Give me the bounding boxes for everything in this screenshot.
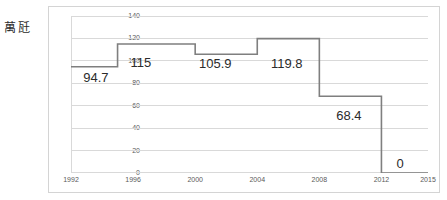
x-axis-tick-label: 2012 — [374, 176, 390, 183]
x-axis-tick-label: 1996 — [125, 176, 141, 183]
data-label: 105.9 — [199, 55, 232, 70]
x-axis-tick-label: 2015 — [420, 176, 436, 183]
x-axis-tick-labels: 1992199620002004200820122015 — [71, 176, 428, 190]
gridlines — [71, 16, 428, 173]
chart-container: 萬瓩 020406080100120140 94.7115105.9119.86… — [0, 0, 447, 200]
x-axis-tick-label: 2004 — [249, 176, 265, 183]
data-label: 68.4 — [336, 107, 361, 122]
x-axis-tick-label: 2008 — [312, 176, 328, 183]
data-label: 115 — [130, 54, 151, 69]
x-axis-tick-label: 2000 — [187, 176, 203, 183]
data-label: 0 — [396, 155, 403, 170]
plot-svg — [71, 16, 428, 173]
data-label: 119.8 — [271, 55, 303, 70]
plot-area: 94.7115105.9119.868.40 — [71, 16, 428, 173]
y-axis-unit-label: 萬瓩 — [4, 18, 48, 35]
data-label: 94.7 — [83, 70, 108, 85]
x-axis-tick-label: 1992 — [63, 176, 79, 183]
